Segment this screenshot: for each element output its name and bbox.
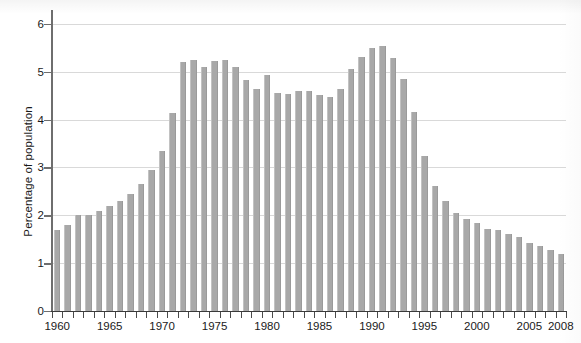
x-tick-mark <box>482 312 483 318</box>
bar <box>327 97 334 311</box>
bar <box>211 61 218 311</box>
y-tick-mark <box>44 72 51 73</box>
x-tick-mark <box>94 312 95 318</box>
y-tick-mark <box>44 311 51 312</box>
bar <box>274 93 281 311</box>
bar <box>495 230 502 311</box>
x-tick-mark <box>146 312 147 318</box>
x-tick-mark <box>178 312 179 318</box>
y-tick-mark <box>44 120 51 121</box>
x-tick-mark <box>535 312 536 318</box>
x-tick-mark <box>220 312 221 318</box>
x-tick-mark <box>388 312 389 318</box>
x-tick-mark <box>304 312 305 318</box>
x-tick-label: 1990 <box>359 320 385 332</box>
bar <box>369 48 376 311</box>
bar <box>127 194 134 311</box>
x-axis-line <box>51 311 567 313</box>
bar <box>390 58 397 311</box>
bar <box>537 246 544 311</box>
x-tick-mark <box>398 312 399 318</box>
x-tick-mark <box>136 312 137 318</box>
y-tick-mark <box>44 215 51 216</box>
bar <box>474 223 481 311</box>
gridline <box>52 72 566 73</box>
y-tick-label: 4 <box>4 114 44 126</box>
x-tick-mark <box>472 312 473 318</box>
bar <box>264 75 271 311</box>
bar <box>222 60 229 311</box>
x-tick-mark <box>430 312 431 318</box>
y-tick-mark <box>44 167 51 168</box>
gridline <box>52 24 566 25</box>
bar <box>253 89 260 311</box>
bar <box>201 67 208 311</box>
bar <box>526 243 533 311</box>
x-tick-mark <box>377 312 378 318</box>
x-tick-mark <box>545 312 546 318</box>
plot-area <box>52 12 566 311</box>
x-tick-mark <box>503 312 504 318</box>
x-tick-mark <box>440 312 441 318</box>
x-tick-mark <box>314 312 315 318</box>
bar <box>547 250 554 311</box>
x-tick-mark <box>461 312 462 318</box>
bar <box>558 254 565 311</box>
bar <box>516 237 523 311</box>
x-tick-label: 1975 <box>202 320 228 332</box>
x-tick-mark <box>451 312 452 318</box>
bar <box>159 151 166 311</box>
bar <box>421 156 428 311</box>
x-tick-mark <box>52 312 53 318</box>
x-tick-mark <box>293 312 294 318</box>
x-tick-mark <box>62 312 63 318</box>
bar <box>453 213 460 311</box>
bar <box>337 89 344 311</box>
x-tick-mark <box>272 312 273 318</box>
bar <box>106 206 113 311</box>
x-tick-mark <box>115 312 116 318</box>
x-tick-mark <box>230 312 231 318</box>
bar-chart-figure: Percentage of population 0123456 1960196… <box>0 0 581 343</box>
bar <box>96 211 103 311</box>
bar <box>442 201 449 311</box>
y-tick-label: 3 <box>4 161 44 173</box>
x-tick-mark <box>251 312 252 318</box>
x-tick-mark <box>188 312 189 318</box>
x-tick-mark <box>199 312 200 318</box>
x-tick-mark <box>157 312 158 318</box>
x-tick-label: 2000 <box>464 320 490 332</box>
x-tick-mark <box>346 312 347 318</box>
bar <box>117 201 124 311</box>
y-axis-line <box>51 10 53 312</box>
bar <box>411 112 418 311</box>
x-tick-label: 1995 <box>412 320 438 332</box>
bar <box>463 219 470 311</box>
plot-canvas <box>52 12 566 311</box>
x-tick-mark <box>262 312 263 318</box>
x-tick-mark <box>209 312 210 318</box>
bar <box>148 170 155 311</box>
bar <box>348 69 355 311</box>
x-tick-mark <box>493 312 494 318</box>
x-tick-mark <box>241 312 242 318</box>
x-tick-label: 2005 <box>516 320 542 332</box>
bar <box>316 95 323 311</box>
x-tick-mark <box>83 312 84 318</box>
bar <box>306 91 313 311</box>
bar <box>64 225 71 311</box>
x-tick-label: 1985 <box>307 320 333 332</box>
bar <box>484 229 491 311</box>
x-tick-mark <box>325 312 326 318</box>
x-tick-mark <box>524 312 525 318</box>
bar <box>85 215 92 311</box>
bar <box>75 215 82 311</box>
bar <box>285 94 292 311</box>
bar <box>400 79 407 311</box>
x-tick-label: 2008 <box>548 320 574 332</box>
x-tick-mark <box>283 312 284 318</box>
x-tick-mark <box>335 312 336 318</box>
bar <box>190 60 197 311</box>
x-tick-mark <box>367 312 368 318</box>
bar <box>358 57 365 311</box>
